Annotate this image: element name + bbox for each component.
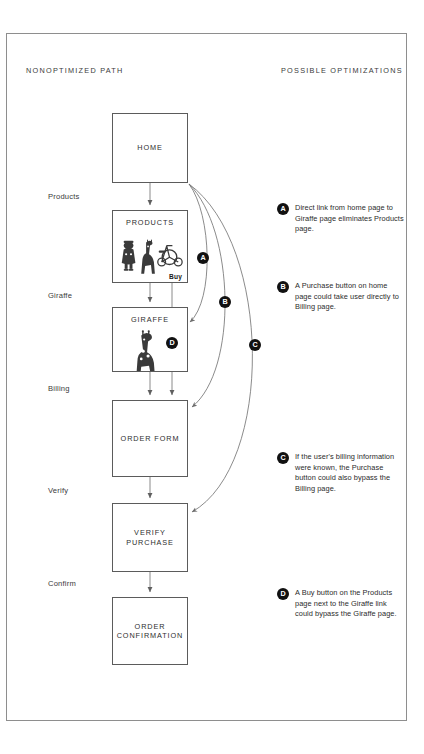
- stage-label-billing: Billing: [48, 384, 70, 393]
- node-products-title: PRODUCTS: [126, 218, 174, 228]
- note-badge-c: C: [277, 452, 289, 464]
- curve-marker-a: A: [197, 252, 209, 264]
- node-products[interactable]: PRODUCTS: [112, 210, 188, 283]
- node-verify-purchase[interactable]: VERIFY PURCHASE: [112, 503, 188, 572]
- note-d: D A Buy button on the Products page next…: [277, 588, 405, 620]
- note-c: C If the user's billing information were…: [277, 452, 405, 494]
- node-home-title: HOME: [137, 143, 163, 153]
- note-b: B A Purchase button on home page could t…: [277, 281, 405, 313]
- note-badge-d: D: [277, 588, 289, 600]
- products-buy-link[interactable]: Buy: [169, 273, 182, 280]
- column-header-nonoptimized-path: NONOPTIMIZED PATH: [26, 66, 124, 75]
- note-text-c: If the user's billing information were k…: [295, 452, 405, 494]
- note-badge-b: B: [277, 281, 289, 293]
- curve-marker-b: B: [219, 296, 231, 308]
- note-badge-a: A: [277, 203, 289, 215]
- node-giraffe-title: GIRAFFE: [131, 315, 169, 325]
- node-order-form-title: ORDER FORM: [121, 434, 180, 444]
- stage-label-products: Products: [48, 192, 80, 201]
- note-text-d: A Buy button on the Products page next t…: [295, 588, 405, 620]
- node-order-confirmation-title: ORDER CONFIRMATION: [117, 622, 184, 641]
- node-verify-purchase-title: VERIFY PURCHASE: [126, 528, 174, 547]
- stage-label-confirm: Confirm: [48, 579, 76, 588]
- products-thumbnail: Buy: [113, 228, 187, 283]
- column-header-possible-optimizations: POSSIBLE OPTIMIZATIONS: [281, 66, 403, 75]
- diagram-page: NONOPTIMIZED PATH POSSIBLE OPTIMIZATIONS…: [0, 0, 424, 754]
- note-text-b: A Purchase button on home page could tak…: [295, 281, 405, 313]
- giraffe-thumbnail: [113, 325, 187, 372]
- node-order-form[interactable]: ORDER FORM: [112, 400, 188, 477]
- stage-label-giraffe: Giraffe: [48, 291, 72, 300]
- note-text-a: Direct link from home page to Giraffe pa…: [295, 203, 405, 235]
- curve-marker-d: D: [166, 337, 178, 349]
- note-a: A Direct link from home page to Giraffe …: [277, 203, 405, 235]
- node-order-confirmation[interactable]: ORDER CONFIRMATION: [112, 597, 188, 665]
- curve-marker-c: C: [249, 339, 261, 351]
- stage-label-verify: Verify: [48, 486, 68, 495]
- node-home[interactable]: HOME: [112, 113, 188, 183]
